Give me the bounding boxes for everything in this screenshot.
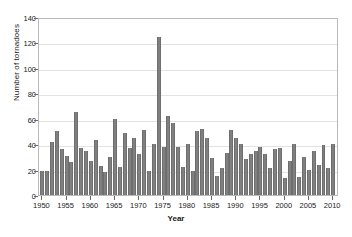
bar-1986 bbox=[215, 176, 219, 195]
y-tick-label-140: 140 bbox=[0, 14, 36, 23]
bar-2006 bbox=[312, 151, 316, 196]
x-tick-mark-2010 bbox=[332, 196, 333, 200]
bar-2003 bbox=[297, 177, 301, 195]
bar-1963 bbox=[103, 172, 107, 195]
tornado-bar-chart: Number of tornadoes 020406080100120140 1… bbox=[0, 0, 352, 237]
bar-1960 bbox=[89, 161, 93, 195]
y-tick-label-0: 0 bbox=[0, 192, 36, 201]
y-tick-label-60: 60 bbox=[0, 115, 36, 124]
y-tick-label-20: 20 bbox=[0, 166, 36, 175]
x-tick-mark-1970 bbox=[138, 196, 139, 200]
bar-1997 bbox=[268, 168, 272, 195]
bar-1967 bbox=[123, 133, 127, 195]
bar-1981 bbox=[191, 171, 195, 195]
gridline-120 bbox=[39, 44, 337, 45]
bar-1995 bbox=[258, 147, 262, 195]
bar-2010 bbox=[331, 144, 335, 195]
bar-1994 bbox=[254, 151, 258, 196]
bar-1972 bbox=[147, 171, 151, 195]
bar-1992 bbox=[244, 159, 248, 195]
bar-2008 bbox=[322, 145, 326, 195]
x-tick-mark-1955 bbox=[66, 196, 67, 200]
bar-1988 bbox=[225, 153, 229, 195]
bar-2000 bbox=[283, 178, 287, 195]
bar-1973 bbox=[152, 144, 156, 195]
bar-1977 bbox=[171, 123, 175, 195]
bar-1958 bbox=[79, 148, 83, 195]
y-tick-label-40: 40 bbox=[0, 141, 36, 150]
bar-2009 bbox=[326, 168, 330, 195]
bar-1969 bbox=[132, 138, 136, 195]
bar-1964 bbox=[108, 157, 112, 195]
x-axis-title: Year bbox=[0, 214, 352, 223]
bar-1979 bbox=[181, 167, 185, 195]
plot-area bbox=[38, 18, 338, 196]
gridline-60 bbox=[39, 121, 337, 122]
bar-1996 bbox=[263, 154, 267, 195]
y-tick-label-100: 100 bbox=[0, 64, 36, 73]
x-tick-mark-2005 bbox=[308, 196, 309, 200]
x-tick-mark-1965 bbox=[114, 196, 115, 200]
bar-1950 bbox=[40, 171, 44, 195]
bar-1984 bbox=[205, 138, 209, 195]
bar-1970 bbox=[137, 154, 141, 195]
bar-1978 bbox=[176, 147, 180, 195]
bar-1961 bbox=[94, 140, 98, 195]
bar-1975 bbox=[162, 147, 166, 195]
y-tick-label-120: 120 bbox=[0, 39, 36, 48]
bar-1985 bbox=[210, 158, 214, 195]
gridline-80 bbox=[39, 95, 337, 96]
bar-1956 bbox=[69, 162, 73, 195]
x-tick-mark-1990 bbox=[235, 196, 236, 200]
bar-1991 bbox=[239, 144, 243, 195]
bar-1968 bbox=[128, 148, 132, 195]
bar-1957 bbox=[74, 112, 78, 195]
bar-1980 bbox=[186, 144, 190, 195]
bar-1959 bbox=[84, 151, 88, 196]
bar-1955 bbox=[65, 156, 69, 195]
x-tick-mark-1980 bbox=[187, 196, 188, 200]
bar-2002 bbox=[292, 144, 296, 195]
bar-1999 bbox=[278, 148, 282, 195]
bar-1953 bbox=[55, 131, 59, 195]
bar-2007 bbox=[317, 165, 321, 196]
bar-2004 bbox=[302, 157, 306, 195]
bar-1990 bbox=[234, 138, 238, 195]
bar-1993 bbox=[249, 154, 253, 195]
bar-1966 bbox=[118, 167, 122, 195]
y-tick-label-80: 80 bbox=[0, 90, 36, 99]
x-tick-mark-1975 bbox=[163, 196, 164, 200]
bar-1989 bbox=[229, 130, 233, 195]
x-tick-mark-1960 bbox=[90, 196, 91, 200]
bar-1954 bbox=[60, 149, 64, 195]
x-tick-mark-2000 bbox=[284, 196, 285, 200]
bar-1952 bbox=[50, 142, 54, 195]
bar-2005 bbox=[307, 170, 311, 195]
x-tick-mark-1985 bbox=[211, 196, 212, 200]
bar-1971 bbox=[142, 130, 146, 195]
bar-1976 bbox=[166, 116, 170, 195]
bar-2001 bbox=[288, 161, 292, 195]
bar-1951 bbox=[45, 171, 49, 195]
bar-1998 bbox=[273, 149, 277, 195]
bar-1962 bbox=[99, 166, 103, 195]
bar-1987 bbox=[220, 168, 224, 195]
x-tick-mark-1950 bbox=[41, 196, 42, 200]
x-tick-label-2010: 2010 bbox=[317, 201, 347, 210]
y-tick-mark-0 bbox=[34, 196, 38, 197]
bar-1974 bbox=[157, 37, 161, 195]
gridline-100 bbox=[39, 70, 337, 71]
x-tick-mark-1995 bbox=[259, 196, 260, 200]
bar-1982 bbox=[195, 131, 199, 195]
bar-1983 bbox=[200, 129, 204, 195]
bar-1965 bbox=[113, 119, 117, 195]
